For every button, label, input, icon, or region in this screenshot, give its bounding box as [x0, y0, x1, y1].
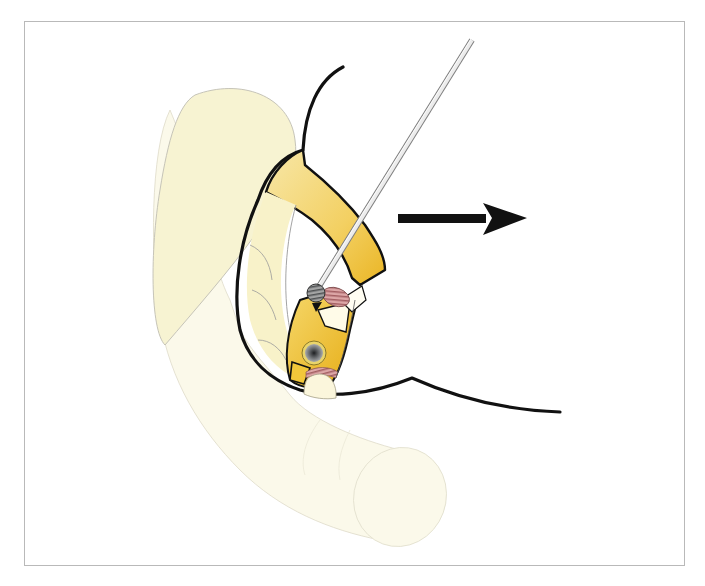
direction-arrow-right — [398, 203, 527, 235]
medical-illustration — [0, 0, 705, 586]
instrument — [307, 39, 472, 312]
papilla-region — [287, 284, 366, 399]
instrument-tip — [307, 284, 325, 302]
